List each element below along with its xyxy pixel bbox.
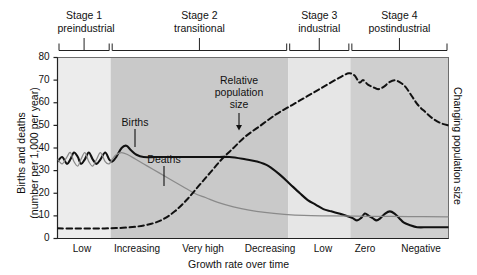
stage-bracket-3 [290,38,349,51]
stage-band-3 [288,58,350,239]
relative-population-size-label-line2: population [189,86,289,98]
demographic-transition-chart: Stage 1preindustrialStage 2transitionalS… [0,0,477,275]
stage-bracket-2 [112,38,287,51]
y-axis-title-left-line1: Births and deaths [15,63,28,243]
deaths-label: Deaths [124,153,204,165]
stage-band-4 [350,58,448,239]
stage-title-2: Stage 2transitional [111,9,289,34]
stage-title-4-line2: postindustrial [350,22,448,35]
x-axis-category-6: Negative [376,243,466,254]
stage-band-1 [58,58,111,239]
chart-canvas [0,0,477,275]
stage-bracket-1 [59,38,109,51]
relative-population-size-label-line3: size [189,98,289,110]
stage-title-1: Stage 1preindustrial [58,9,111,34]
stage-title-2-line2: transitional [111,22,289,35]
y-axis-title-left-line2: (number per 1,000 per year) [28,63,41,243]
y-axis-title-right: Changing population size [452,56,464,236]
stage-title-1-line2: preindustrial [58,22,111,35]
y-axis-title-left: Births and deaths(number per 1,000 per y… [15,63,41,243]
births-label: Births [95,116,175,128]
stage-title-4-line1: Stage 4 [350,9,448,22]
stage-title-3: Stage 3industrial [288,9,350,34]
stage-bracket-4 [352,38,447,51]
stage-title-4: Stage 4postindustrial [350,9,448,34]
relative-population-size-label: Relativepopulationsize [189,74,289,110]
relative-population-size-label-line1: Relative [189,74,289,86]
stage-title-1-line1: Stage 1 [58,9,111,22]
stage-title-3-line2: industrial [288,22,350,35]
x-axis-title: Growth rate over time [0,258,477,270]
stage-title-3-line1: Stage 3 [288,9,350,22]
y-axis-label-80: 80 [28,51,50,62]
stage-title-2-line1: Stage 2 [111,9,289,22]
